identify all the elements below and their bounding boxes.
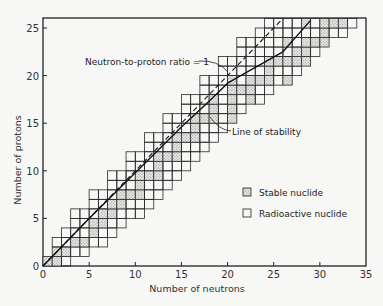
radioactive-nuclide-cell [218,123,227,133]
radioactive-nuclide-cell [163,180,172,190]
x-tick-label: 15 [175,269,188,280]
radioactive-nuclide-cell [89,237,98,247]
radioactive-nuclide-cell [71,247,80,257]
radioactive-nuclide-cell [181,161,190,171]
radioactive-nuclide-cell [181,123,190,133]
radioactive-nuclide-cell [191,142,200,152]
stable-nuclide-cell [311,38,320,48]
stable-nuclide-cell [338,18,347,28]
stable-nuclide-cell [228,85,237,95]
stable-nuclide-cell [191,133,200,143]
radioactive-nuclide-cell [154,133,163,143]
x-tick-label: 20 [221,269,234,280]
radioactive-nuclide-cell [181,152,190,162]
radioactive-nuclide-cell [71,209,80,219]
stable-nuclide-cell [145,171,154,181]
radioactive-nuclide-cell [200,133,209,143]
radioactive-nuclide-cell [237,47,246,57]
radioactive-nuclide-cell [246,38,255,48]
radioactive-nuclide-cell [172,161,181,171]
stable-nuclide-cell [264,76,273,86]
radioactive-nuclide-cell [274,28,283,38]
radioactive-nuclide-cell [283,28,292,38]
radioactive-nuclide-cell [71,218,80,228]
nuclide-cells [43,18,357,266]
stability-annotation: Line of stability [232,127,302,137]
radioactive-nuclide-cell [145,190,154,200]
stable-nuclide-cell [135,190,144,200]
ratio-annotation: Neutron-to-proton ratio = 1 [85,57,209,67]
stable-nuclide-cell [255,76,264,86]
x-tick-label: 30 [313,269,326,280]
radioactive-nuclide-cell [274,38,283,48]
radioactive-nuclide-cell [98,190,107,200]
radioactive-nuclide-cell [108,218,117,228]
stable-nuclide-cell [52,256,61,266]
stable-nuclide-cell [126,190,135,200]
stable-nuclide-cell [246,85,255,95]
radioactive-nuclide-cell [246,57,255,67]
stable-nuclide-cell [108,199,117,209]
radioactive-nuclide-cell [255,28,264,38]
radioactive-nuclide-cell [117,218,126,228]
radioactive-nuclide-cell [163,171,172,181]
stable-nuclide-cell [163,152,172,162]
radioactive-nuclide-cell [163,114,172,124]
radioactive-nuclide-cell [154,190,163,200]
radioactive-nuclide-cell [283,47,292,57]
radioactive-nuclide-cell [191,152,200,162]
radioactive-nuclide-cell [200,123,209,133]
radioactive-nuclide-cell [61,228,70,238]
legend-stable-swatch [243,188,251,196]
stable-nuclide-cell [71,237,80,247]
radioactive-nuclide-cell [135,152,144,162]
radioactive-nuclide-cell [98,228,107,238]
radioactive-nuclide-cell [255,95,264,105]
x-tick-label: 35 [360,269,373,280]
stable-nuclide-cell [80,237,89,247]
y-tick-label: 25 [26,23,39,34]
stable-nuclide-cell [320,18,329,28]
y-tick-label: 20 [26,71,39,82]
radioactive-nuclide-cell [80,228,89,238]
radioactive-nuclide-cell [311,28,320,38]
stable-nuclide-cell [89,228,98,238]
radioactive-nuclide-cell [154,180,163,190]
radioactive-nuclide-cell [237,38,246,48]
stable-nuclide-cell [154,161,163,171]
stable-nuclide-cell [209,104,218,114]
stable-nuclide-cell [154,171,163,181]
stable-nuclide-cell [301,38,310,48]
stable-nuclide-cell [61,247,70,257]
radioactive-nuclide-cell [283,66,292,76]
stable-nuclide-cell [117,190,126,200]
stable-nuclide-cell [191,114,200,124]
radioactive-nuclide-cell [163,123,172,133]
radioactive-nuclide-cell [218,85,227,95]
radioactive-nuclide-cell [145,142,154,152]
radioactive-nuclide-cell [255,66,264,76]
radioactive-nuclide-cell [108,180,117,190]
radioactive-nuclide-cell [145,199,154,209]
radioactive-nuclide-cell [329,28,338,38]
stable-nuclide-cell [98,209,107,219]
nuclide-chart: 05101520253035 0510152025 Number of neut… [0,0,383,306]
radioactive-nuclide-cell [108,228,117,238]
stable-nuclide-cell [172,152,181,162]
radioactive-nuclide-cell [264,47,273,57]
radioactive-nuclide-cell [311,47,320,57]
radioactive-nuclide-cell [218,104,227,114]
radioactive-nuclide-cell [172,114,181,124]
radioactive-nuclide-cell [126,180,135,190]
radioactive-nuclide-cell [126,161,135,171]
stable-nuclide-cell [117,199,126,209]
radioactive-nuclide-cell [117,171,126,181]
stable-nuclide-cell [264,66,273,76]
stable-nuclide-cell [237,85,246,95]
y-axis-title: Number of protons [12,115,23,204]
radioactive-nuclide-cell [135,199,144,209]
radioactive-nuclide-cell [181,95,190,105]
radioactive-nuclide-cell [218,114,227,124]
radioactive-nuclide-cell [126,199,135,209]
x-tick-label: 5 [86,269,92,280]
